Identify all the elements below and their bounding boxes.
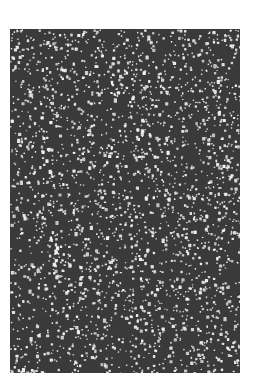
speckle-noise-image: [10, 29, 240, 373]
speckle-noise-canvas: [10, 29, 240, 373]
